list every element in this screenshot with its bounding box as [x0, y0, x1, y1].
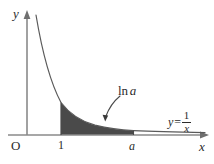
natural-log-function-name: ln: [118, 83, 128, 98]
curve-equation-label: y = 1 x: [168, 110, 191, 134]
area-annotation-leader-line: [106, 96, 120, 116]
x-tick-label-1: 1: [58, 139, 64, 151]
area-value-annotation: lna: [118, 84, 136, 97]
x-axis-label: x: [199, 140, 205, 153]
figure-canvas: [0, 0, 214, 164]
area-annotation-arrowhead: [103, 115, 109, 122]
natural-log-argument: a: [130, 83, 137, 98]
figure-area-under-hyperbola: y x O 1 a lna y = 1 x: [0, 0, 214, 164]
equals-sign: =: [174, 116, 181, 128]
y-axis-label: y: [13, 7, 19, 20]
x-tick-label-a: a: [129, 140, 135, 152]
fraction-numerator: 1: [183, 110, 191, 121]
fraction-one-over-x: 1 x: [182, 110, 191, 134]
y-axis-arrowhead: [24, 10, 31, 19]
origin-label: O: [11, 139, 20, 152]
fraction-denominator: x: [183, 123, 190, 134]
equation-left-hand-side: y: [168, 116, 173, 128]
